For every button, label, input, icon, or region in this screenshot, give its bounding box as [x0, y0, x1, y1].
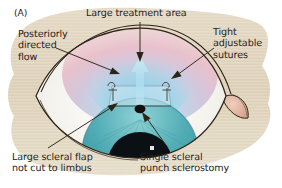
label-large-scleral-flap-line2: not cut to limbus	[12, 163, 92, 174]
label-large-scleral-flap-line1: Large scleral flap	[12, 152, 93, 163]
label-posteriorly-directed-flow-line3: flow	[18, 52, 37, 63]
label-tight-adjustable-sutures: Tightadjustablesutures	[213, 27, 262, 61]
panel-label: (A)	[14, 7, 27, 18]
label-large-treatment-area: Large treatment area	[86, 8, 187, 19]
label-posteriorly-directed-flow-line2: directed	[18, 40, 57, 51]
label-large-scleral-flap: Large scleral flapnot cut to limbus	[12, 152, 93, 175]
label-tight-adjustable-sutures-line1: Tight	[213, 27, 237, 38]
label-single-scleral-punch-sclerostomy: Single scleralpunch sclerostomy	[140, 152, 229, 175]
label-tight-adjustable-sutures-line3: sutures	[213, 50, 248, 61]
label-single-scleral-punch-sclerostomy-line2: punch sclerostomy	[140, 163, 229, 174]
label-posteriorly-directed-flow: Posteriorlydirectedflow	[18, 29, 68, 63]
figure-panel-a: (A) Large treatment area Posteriorlydire…	[0, 0, 282, 188]
label-tight-adjustable-sutures-line2: adjustable	[213, 38, 262, 49]
label-single-scleral-punch-sclerostomy-line1: Single scleral	[140, 152, 202, 163]
label-posteriorly-directed-flow-line1: Posteriorly	[18, 29, 68, 40]
sclerostomy-opening	[135, 105, 146, 113]
corneal-light-reflex	[150, 146, 154, 150]
